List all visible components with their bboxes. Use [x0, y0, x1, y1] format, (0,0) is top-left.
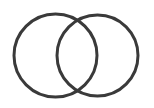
- venn-diagram-figure: [0, 0, 154, 108]
- venn-diagram-svg: [0, 0, 154, 108]
